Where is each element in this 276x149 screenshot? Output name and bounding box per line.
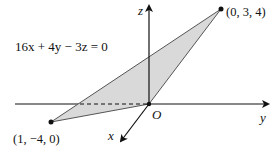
point-0-3-4 (219, 7, 224, 12)
y-axis-label: y (258, 110, 266, 125)
equation-label: 16x + 4y − 3z = 0 (15, 39, 108, 54)
origin-point (147, 102, 151, 106)
point-label-0-3-4: (0, 3, 4) (226, 5, 266, 19)
origin-label: O (152, 107, 162, 122)
x-axis (121, 104, 149, 141)
point-label-1-neg4-0: (1, −4, 0) (13, 132, 60, 146)
point-1-neg4-0 (49, 120, 54, 125)
z-axis-label: z (137, 3, 143, 18)
plane-diagram: 16x + 4y − 3z = 0 z y x O (0, 3, 4) (1, … (0, 0, 276, 149)
x-axis-label: x (107, 128, 114, 143)
plane-triangle (51, 9, 221, 122)
